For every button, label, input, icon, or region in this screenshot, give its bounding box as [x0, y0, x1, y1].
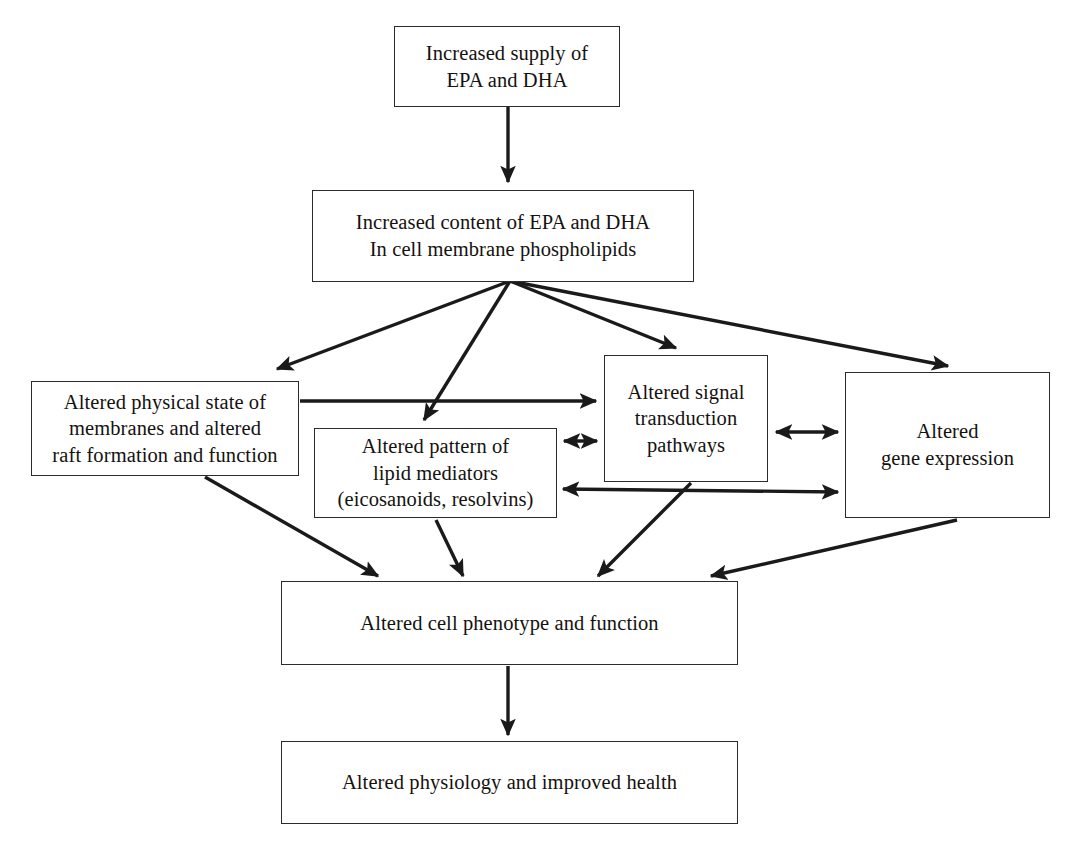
node-label: Altered physiology and improved health: [342, 769, 677, 796]
node-increased-supply[interactable]: Increased supply of EPA and DHA: [394, 26, 620, 107]
node-altered-signal-transduction[interactable]: Altered signal transduction pathways: [604, 355, 768, 482]
edge-content-to-signal-transduction: [510, 281, 676, 348]
edge-content-to-physical-state: [277, 281, 510, 369]
node-label: Altered cell phenotype and function: [360, 610, 658, 637]
node-label: Altered signal transduction pathways: [628, 379, 745, 459]
flowchart-canvas: Increased supply of EPA and DHA Increase…: [0, 0, 1082, 851]
node-increased-content[interactable]: Increased content of EPA and DHA In cell…: [312, 190, 694, 282]
node-altered-physical-state[interactable]: Altered physical state of membranes and …: [31, 381, 299, 476]
node-label: Increased content of EPA and DHA In cell…: [356, 209, 651, 262]
edge-lipid-mediators-to-cell-phenotype: [436, 520, 463, 576]
node-label: Increased supply of EPA and DHA: [426, 40, 588, 93]
node-altered-cell-phenotype[interactable]: Altered cell phenotype and function: [281, 581, 738, 665]
node-altered-gene-expression[interactable]: Altered gene expression: [845, 372, 1050, 518]
node-altered-lipid-mediators[interactable]: Altered pattern of lipid mediators (eico…: [314, 428, 557, 518]
edge-signal-transduction-to-cell-phenotype: [598, 483, 691, 576]
edge-content-to-lipid-mediators: [424, 281, 510, 420]
node-altered-physiology[interactable]: Altered physiology and improved health: [281, 741, 738, 824]
node-label: Altered pattern of lipid mediators (eico…: [338, 433, 534, 513]
edge-gene-expression-to-cell-phenotype: [711, 520, 957, 576]
edge-lipid-mediators-gene-expression: [563, 489, 838, 492]
node-label: Altered physical state of membranes and …: [52, 389, 277, 469]
edge-content-to-gene-expression: [510, 281, 948, 366]
node-label: Altered gene expression: [881, 418, 1014, 471]
